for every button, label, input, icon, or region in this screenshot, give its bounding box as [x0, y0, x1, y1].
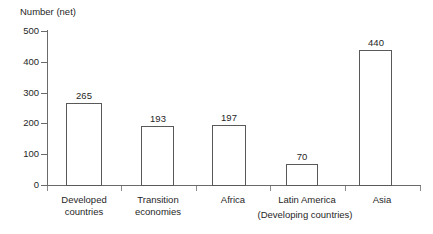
y-tick-label-400-wrap: 400: [0, 57, 39, 67]
y-tick-label-200-wrap: 200: [0, 118, 39, 128]
category-label-line1: Africa: [198, 194, 268, 206]
y-tick-label-300: 300: [1, 88, 39, 98]
y-tick-label-0: 0: [1, 180, 39, 190]
y-tick-500: [41, 31, 47, 32]
y-tick-label-0-wrap: 0: [0, 180, 39, 190]
bar-asia: [359, 50, 392, 186]
bar-chart: Number (net) 500 400 300 200 100 0: [0, 0, 433, 234]
y-tick-label-500-wrap: 500: [0, 26, 39, 36]
bar-value-developed-countries: 265: [54, 90, 114, 101]
category-label-latin-america: Latin America: [268, 194, 346, 206]
category-label-line2: economies: [123, 206, 193, 218]
y-tick-400: [41, 62, 47, 63]
y-tick-label-500: 500: [1, 26, 39, 36]
y-tick-label-200: 200: [1, 118, 39, 128]
category-label-line2: countries: [49, 206, 119, 218]
x-tick-5: [420, 186, 421, 191]
y-tick-300: [41, 93, 47, 94]
category-label-line1: Transition: [123, 194, 193, 206]
y-tick-200: [41, 123, 47, 124]
y-tick-100: [41, 154, 47, 155]
bar-value-africa: 197: [199, 112, 259, 123]
y-tick-label-300-wrap: 300: [0, 88, 39, 98]
y-tick-label-400: 400: [1, 57, 39, 67]
category-label-line1: Latin America: [268, 194, 346, 206]
bar-value-transition-economies: 193: [128, 113, 188, 124]
y-tick-label-100: 100: [1, 149, 39, 159]
x-tick-0: [47, 186, 48, 191]
category-label-transition-economies: Transition economies: [123, 194, 193, 217]
category-label-line1: Developed: [49, 194, 119, 206]
bar-africa: [212, 125, 246, 186]
bar-value-latin-america: 70: [272, 151, 332, 162]
group-annotation-developing-countries: (Developing countries): [240, 209, 370, 221]
bar-latin-america: [286, 164, 318, 186]
bar-developed-countries: [66, 103, 102, 186]
x-tick-4: [345, 186, 346, 191]
category-label-developed-countries: Developed countries: [49, 194, 119, 217]
x-tick-1: [121, 186, 122, 191]
y-tick-label-100-wrap: 100: [0, 149, 39, 159]
bar-value-asia: 440: [346, 37, 406, 48]
x-tick-3: [270, 186, 271, 191]
x-tick-2: [196, 186, 197, 191]
bar-transition-economies: [141, 126, 174, 186]
category-label-line1: Asia: [347, 194, 417, 206]
y-axis-title: Number (net): [20, 6, 76, 18]
category-label-asia: Asia: [347, 194, 417, 206]
category-label-africa: Africa: [198, 194, 268, 206]
y-axis-line: [47, 30, 48, 186]
